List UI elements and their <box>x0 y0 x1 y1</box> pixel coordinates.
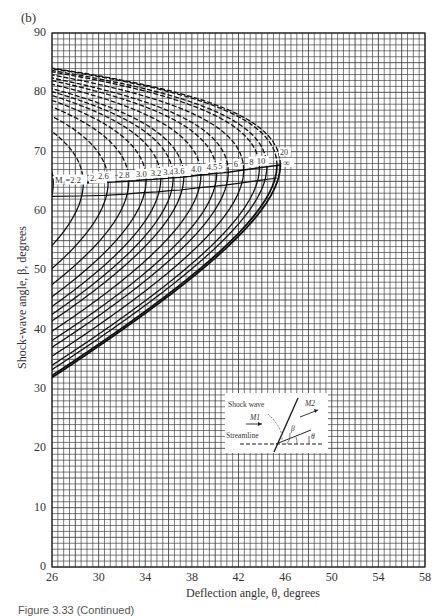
inset-beta-label: β <box>290 424 295 433</box>
svg-text:8: 8 <box>249 157 253 167</box>
x-tick-label: 50 <box>317 570 347 585</box>
svg-text:3.0: 3.0 <box>136 169 147 179</box>
y-tick-label: 60 <box>24 203 46 218</box>
svg-text:∞: ∞ <box>283 158 289 168</box>
grid <box>52 33 425 567</box>
svg-text:4.0: 4.0 <box>191 164 202 174</box>
curve-strong-M1=2.2 <box>0 34 53 184</box>
figure-caption: Figure 3.33 (Continued) <box>18 604 134 616</box>
inset-shock-wave-label: Shock wave <box>228 400 265 409</box>
x-tick-label: 30 <box>84 570 114 585</box>
y-tick-label: 70 <box>24 144 46 159</box>
inset-theta-label: θ <box>311 432 315 441</box>
x-tick-label: 26 <box>37 570 67 585</box>
x-tick-label: 58 <box>410 570 440 585</box>
x-tick-label: 54 <box>363 570 393 585</box>
inset-streamline-label: Streamline <box>226 431 259 440</box>
y-tick-label: 90 <box>24 25 46 40</box>
x-tick-label: 46 <box>270 570 300 585</box>
svg-text:10: 10 <box>257 156 266 166</box>
svg-text:20: 20 <box>280 148 288 157</box>
inset-m2-label: M2 <box>304 399 315 408</box>
svg-text:3.2: 3.2 <box>151 168 162 178</box>
svg-text:6: 6 <box>234 159 238 169</box>
curve-strong-2.4 <box>0 34 83 183</box>
inset-diagram: Shock waveM1StreamlineM2βθ <box>225 393 328 453</box>
svg-text:4.5: 4.5 <box>207 162 218 172</box>
x-axis-label: Deflection angle, θ, degrees <box>30 586 446 601</box>
y-axis-label: Shock-wave angle, β, degrees <box>15 218 30 378</box>
x-tick-label: 38 <box>177 570 207 585</box>
curve-strong-2.6 <box>0 34 108 182</box>
x-tick-label: 34 <box>130 570 160 585</box>
y-tick-label: 20 <box>24 440 46 455</box>
x-tick-label: 42 <box>224 570 254 585</box>
inset-m1-label: M1 <box>249 413 260 422</box>
y-tick-label: 10 <box>24 500 46 515</box>
svg-text:2.8: 2.8 <box>119 170 130 180</box>
svg-text:M₁=2.2: M₁=2.2 <box>55 175 81 185</box>
svg-text:5: 5 <box>218 161 222 171</box>
y-tick-label: 80 <box>24 84 46 99</box>
y-tick-label: 30 <box>24 381 46 396</box>
svg-text:2.6: 2.6 <box>98 171 109 181</box>
svg-text:3.6: 3.6 <box>174 166 185 176</box>
